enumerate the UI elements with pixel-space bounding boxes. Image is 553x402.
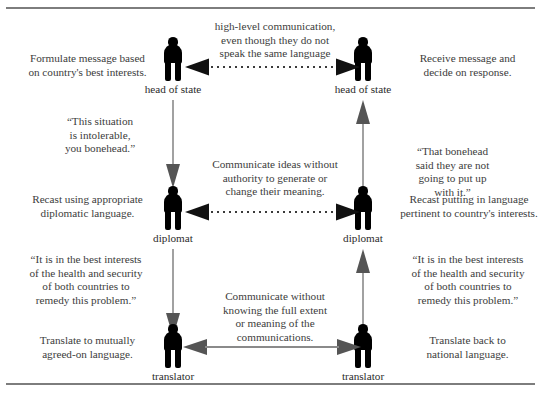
row3-left-caption: Translate to mutually agreed-on language…: [15, 334, 160, 361]
row1-center-caption: high-level communication, even though th…: [190, 20, 360, 61]
person-leg-gap-shape: [171, 350, 175, 368]
role-label-diplomat-left: diplomat: [113, 232, 233, 245]
row3-center-caption: Communicate without knowing the full ext…: [192, 290, 358, 344]
quote-left-lower: “It is in the best interests of the heal…: [12, 253, 160, 307]
quote-right-upper: “That bonehead said they are not going t…: [395, 145, 510, 199]
row3-right-caption: Translate back to national language.: [395, 334, 540, 361]
frame-top-rule: [6, 7, 535, 9]
role-label-translator-left: translator: [113, 370, 233, 383]
person-silhouette-icon: [160, 186, 186, 230]
row1-right-caption: Receive message and decide on response.: [395, 52, 540, 79]
frame-bottom-rule: [6, 383, 535, 385]
person-right-leg-shape: [175, 210, 181, 230]
person-right-leg-shape: [365, 210, 371, 230]
row1-dotted-double-arrow: [185, 58, 360, 76]
row2-dotted-double-arrow: [185, 203, 360, 221]
role-label-head-of-state-left: head of state: [113, 83, 233, 96]
person-right-leg-shape: [365, 61, 371, 81]
role-label-head-of-state-right: head of state: [303, 83, 423, 96]
person-silhouette-icon: [160, 37, 186, 81]
diagram-canvas: high-level communication, even though th…: [0, 0, 553, 402]
person-right-leg-shape: [175, 348, 181, 368]
row1-left-caption: Formulate message based on country's bes…: [15, 52, 160, 79]
quote-right-lower: “It is in the best interests of the heal…: [392, 253, 544, 307]
role-label-translator-right: translator: [303, 370, 423, 383]
person-leg-gap-shape: [171, 63, 175, 81]
row2-center-caption: Communicate ideas without authority to g…: [190, 158, 360, 199]
person-leg-gap-shape: [361, 63, 365, 81]
row2-right-caption: Recast putting in language pertinent to …: [390, 193, 548, 220]
person-right-leg-shape: [175, 61, 181, 81]
row2-left-caption: Recast using appropriate diplomatic lang…: [15, 193, 160, 220]
quote-left-upper: “This situation is intolerable, you bone…: [45, 115, 155, 156]
role-label-diplomat-right: diplomat: [303, 232, 423, 245]
person-leg-gap-shape: [361, 212, 365, 230]
row3-solid-double-arrow: [183, 338, 361, 356]
person-leg-gap-shape: [361, 350, 365, 368]
left-flow-1-down-arrow: [165, 100, 181, 188]
person-leg-gap-shape: [171, 212, 175, 230]
person-right-leg-shape: [365, 348, 371, 368]
